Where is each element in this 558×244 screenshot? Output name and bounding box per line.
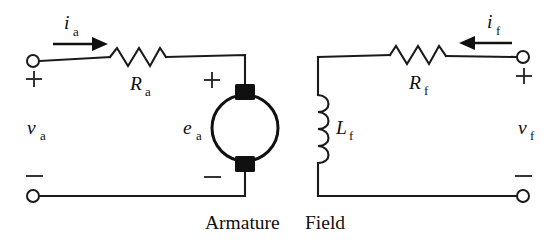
- circuit-schematic-canvas: i a R a v a e a Armature: [0, 0, 558, 244]
- armature-resistor-label: R: [129, 73, 142, 94]
- circuit-diagram-figure: i a R a v a e a Armature: [0, 0, 558, 244]
- armature-current-arrow: [53, 37, 108, 51]
- armature-current-label: i: [64, 12, 69, 33]
- field-resistor-symbol: [390, 46, 446, 64]
- armature-resistor-symbol: [110, 48, 166, 66]
- dc-machine-brush-top: [235, 84, 255, 100]
- field-current-arrow: [459, 36, 512, 50]
- emf-label: e: [183, 117, 192, 138]
- armature-top-wire-right: [166, 55, 245, 86]
- field-inductor-sublabel: f: [349, 128, 354, 143]
- field-inductor-label: L: [335, 117, 347, 138]
- armature-top-wire-left: [40, 57, 110, 61]
- field-terminal-negative: [517, 190, 529, 202]
- field-source-sublabel: f: [530, 128, 535, 143]
- field-top-wire-right: [446, 56, 516, 57]
- field-current-label: i: [487, 11, 492, 32]
- field-terminal-positive: [517, 51, 529, 63]
- field-inductor-symbol: [318, 95, 329, 163]
- armature-current-sublabel: a: [73, 24, 79, 39]
- field-top-wire-left: [318, 55, 390, 57]
- armature-circuit: i a R a v a e a Armature: [26, 12, 280, 233]
- armature-source-label: v: [27, 117, 36, 138]
- armature-caption: Armature: [205, 212, 280, 233]
- armature-terminal-negative: [27, 190, 39, 202]
- armature-terminal-positive: [27, 55, 39, 67]
- armature-source-sublabel: a: [40, 128, 46, 143]
- emf-sublabel: a: [196, 128, 202, 143]
- armature-bottom-wire: [40, 171, 245, 196]
- field-resistor-label: R: [408, 72, 421, 93]
- field-current-sublabel: f: [496, 23, 501, 38]
- field-circuit: i f R f L f v f Field: [305, 11, 535, 233]
- armature-resistor-sublabel: a: [145, 84, 151, 99]
- field-resistor-sublabel: f: [424, 83, 429, 98]
- field-source-label: v: [518, 117, 527, 138]
- dc-machine-rotor-circle: [212, 95, 278, 161]
- dc-machine-brush-bottom: [235, 156, 255, 172]
- field-caption: Field: [305, 212, 345, 233]
